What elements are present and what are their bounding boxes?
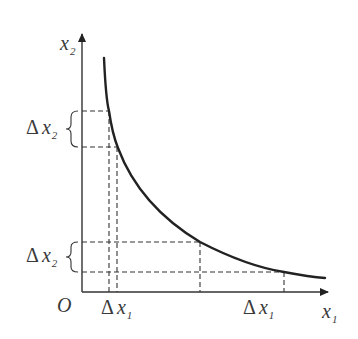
dashed-guides-upper	[82, 111, 117, 292]
x-axis-label: x1	[321, 300, 337, 325]
convex-curve	[104, 58, 325, 278]
delta-x1-right-label: Δx1	[243, 296, 274, 321]
delta-x1-left-label: Δx1	[101, 296, 132, 321]
y-axis-label: x2	[59, 32, 76, 57]
delta-x2-upper-label: Δx2	[26, 116, 58, 141]
brace-upper	[66, 111, 78, 147]
dashed-guides-lower	[82, 242, 284, 292]
diagram-canvas: x2 x1 O Δx2 Δx2 Δx1 Δx1	[0, 0, 358, 339]
origin-label: O	[57, 294, 71, 316]
delta-x2-lower-label: Δx2	[26, 244, 58, 269]
brace-lower	[66, 242, 78, 272]
